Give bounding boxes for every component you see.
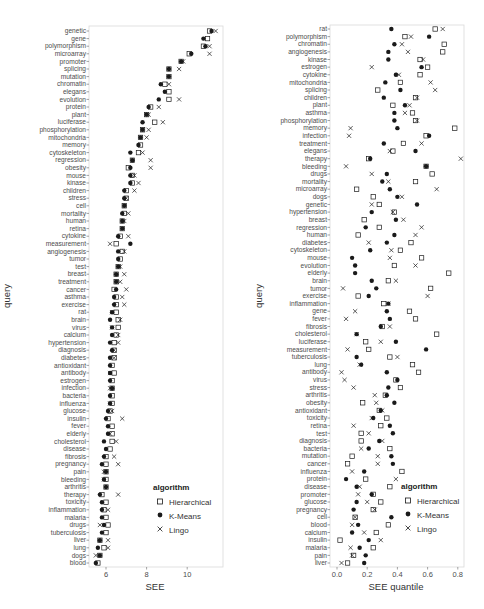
hierarchical-point xyxy=(114,310,118,314)
query-label: cholesterol xyxy=(54,438,86,445)
kmeans-point xyxy=(354,500,358,504)
query-label: cancer xyxy=(307,460,328,467)
query-label: disease xyxy=(63,445,86,452)
query-label: human xyxy=(307,231,327,238)
query-label: tumor xyxy=(310,285,328,292)
kmeans-point xyxy=(389,454,393,458)
query-label: bacteria xyxy=(63,392,87,399)
kmeans-point xyxy=(380,179,384,183)
kmeans-point xyxy=(394,340,398,344)
hierarchical-point xyxy=(354,187,358,191)
hierarchical-point xyxy=(110,424,114,428)
kmeans-point xyxy=(344,477,348,481)
query-label: brain xyxy=(71,316,86,323)
kmeans-point xyxy=(362,469,366,473)
query-label: influenza xyxy=(60,400,87,407)
kmeans-point xyxy=(392,118,396,122)
right-y-axis-title: query xyxy=(253,284,264,308)
hierarchical-point xyxy=(425,65,429,69)
kmeans-point xyxy=(351,507,355,511)
hierarchical-point xyxy=(407,309,411,313)
query-label: rat xyxy=(319,25,327,32)
query-label: blood xyxy=(311,521,327,528)
kmeans-point xyxy=(382,95,386,99)
hierarchical-point xyxy=(398,385,402,389)
hierarchical-point xyxy=(419,256,423,260)
query-label: exercise xyxy=(61,301,86,308)
hierarchical-point xyxy=(418,73,422,77)
query-label: calcium xyxy=(305,529,328,536)
query-label: virus xyxy=(313,376,328,383)
hierarchical-point xyxy=(377,225,381,229)
kmeans-point xyxy=(385,393,389,397)
query-label: antioxidant xyxy=(54,362,86,369)
hierarchical-point xyxy=(360,401,364,405)
hierarchical-point xyxy=(410,362,414,366)
kmeans-point xyxy=(391,462,395,466)
kmeans-point xyxy=(370,279,374,283)
query-label: arthritis xyxy=(305,391,327,398)
kmeans-point xyxy=(388,423,392,427)
right-query-labels: ratpolymorphismchromatinangiogenesiskina… xyxy=(280,25,330,566)
query-label: measurement xyxy=(287,346,327,353)
kmeans-point xyxy=(116,234,120,238)
kmeans-point xyxy=(108,340,112,344)
hierarchical-point xyxy=(102,546,106,550)
x-tick-label: 0.8 xyxy=(453,570,463,579)
query-label: chromatin xyxy=(57,80,86,87)
query-label: test xyxy=(316,430,327,437)
kmeans-point xyxy=(128,150,132,154)
query-label: arthritis xyxy=(64,483,86,490)
kmeans-point xyxy=(424,347,428,351)
legend-title: algorithm xyxy=(153,483,189,492)
hierarchical-point xyxy=(371,546,375,550)
hierarchical-point xyxy=(386,279,390,283)
query-label: kinase xyxy=(67,179,86,186)
kmeans-point xyxy=(385,240,389,244)
x-tick-label: 8 xyxy=(145,570,149,579)
hierarchical-point xyxy=(356,294,360,298)
hierarchical-point xyxy=(430,172,434,176)
kmeans-point xyxy=(419,65,423,69)
kmeans-point xyxy=(370,210,374,214)
hierarchical-point xyxy=(104,530,108,534)
query-label: malaria xyxy=(305,544,327,551)
kmeans-point xyxy=(120,226,124,230)
hierarchical-point xyxy=(112,340,116,344)
query-label: stress xyxy=(68,194,86,201)
kmeans-point xyxy=(110,333,114,337)
right-x-axis-ticks: 0.00.20.40.60.8 xyxy=(332,567,463,579)
kmeans-point xyxy=(157,97,161,101)
hierarchical-point xyxy=(106,523,110,527)
hierarchical-point xyxy=(345,462,349,466)
kmeans-point xyxy=(104,485,108,489)
hierarchical-point xyxy=(108,447,112,451)
kmeans-point xyxy=(395,378,399,382)
hierarchical-point xyxy=(338,538,342,542)
query-label: infection xyxy=(302,132,327,139)
kmeans-point xyxy=(427,34,431,38)
query-label: fever xyxy=(312,315,327,322)
left-y-axis-title: query xyxy=(1,284,12,308)
hierarchical-point xyxy=(382,301,386,305)
kmeans-point xyxy=(114,272,118,276)
hierarchical-point xyxy=(153,120,157,124)
hierarchical-point xyxy=(413,179,417,183)
query-label: cell xyxy=(317,513,327,520)
query-label: mutation xyxy=(302,452,328,459)
kmeans-point xyxy=(167,74,171,78)
hierarchical-point xyxy=(413,317,417,321)
hierarchical-point xyxy=(388,446,392,450)
query-label: breast xyxy=(309,216,327,223)
hierarchical-point xyxy=(447,271,451,275)
legend-label-hierarchical: Hierarchical xyxy=(417,497,459,506)
kmeans-point xyxy=(108,356,112,360)
hierarchical-point xyxy=(442,42,446,46)
hierarchical-point xyxy=(367,347,371,351)
query-label: infection xyxy=(61,384,86,391)
query-label: asthma xyxy=(305,109,327,116)
kmeans-point xyxy=(388,187,392,191)
kmeans-point xyxy=(356,523,360,527)
filled-circle-icon xyxy=(406,512,411,517)
hierarchical-point xyxy=(136,150,140,154)
